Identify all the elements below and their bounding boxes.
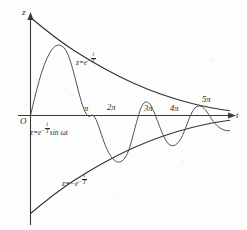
- tick-label-5pi: 5π: [202, 95, 211, 104]
- t-axis-label: t: [236, 111, 239, 120]
- tick-label-4pi: 4π: [170, 104, 179, 113]
- damped-sine-curve: [31, 45, 231, 162]
- upper-envelope-base: z=e: [76, 58, 87, 67]
- oscillation-base: z=e: [30, 128, 41, 137]
- z-axis-label: z: [22, 8, 26, 17]
- origin-label: O: [20, 117, 27, 126]
- z-axis: [27, 12, 33, 225]
- oscillation-exponent: tT: [45, 122, 50, 135]
- oscillation-tail: sin ωt: [50, 128, 68, 137]
- lower-envelope-exponent: tT: [82, 173, 87, 186]
- lower-envelope-base: z=−e: [62, 179, 78, 188]
- t-axis: [18, 112, 236, 118]
- lower-envelope-equation: z=−e−tT: [62, 176, 87, 189]
- tick-label-3pi: 3π: [144, 104, 153, 113]
- tick-label-pi: π: [84, 104, 88, 113]
- oscillation-exp-den: T: [45, 128, 50, 135]
- upper-envelope-equation: z=e−tT: [76, 55, 96, 68]
- tick-label-2pi: 2π: [107, 103, 116, 112]
- upper-envelope-exp-den: T: [91, 58, 96, 65]
- oscillation-equation: z=e−tTsin ωt: [30, 125, 68, 138]
- upper-envelope-exponent: tT: [91, 52, 96, 65]
- damped-oscillation-figure: [0, 0, 247, 230]
- upper-envelope-curve: [31, 18, 231, 111]
- lower-envelope-exp-den: T: [82, 179, 87, 186]
